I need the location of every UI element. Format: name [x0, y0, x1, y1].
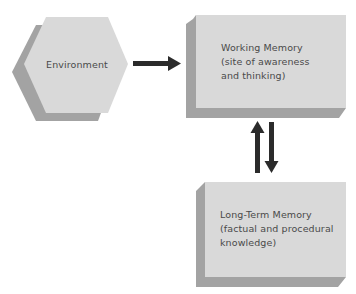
long-term-memory-title: Long-Term Memory: [220, 208, 334, 222]
arrow-long-term-to-working-memory: [251, 121, 265, 173]
memory-model-diagram: Environment Working Memory (site of awar…: [0, 0, 356, 294]
environment-label: Environment: [46, 58, 108, 72]
arrow-environment-to-working-memory: [133, 56, 181, 71]
long-term-memory-label: Long-Term Memory (factual and procedural…: [220, 208, 334, 250]
long-term-memory-desc-line1: (factual and procedural: [220, 222, 334, 236]
arrow-working-to-long-term-memory: [265, 122, 279, 173]
working-memory-desc-line1: (site of awareness: [221, 55, 310, 69]
working-memory-label: Working Memory (site of awareness and th…: [221, 41, 310, 83]
long-term-memory-desc-line2: knowledge): [220, 236, 334, 250]
working-memory-title: Working Memory: [221, 41, 310, 55]
working-memory-desc-line2: and thinking): [221, 69, 310, 83]
